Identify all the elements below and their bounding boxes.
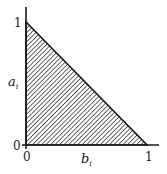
y-axis-label-main: a	[8, 74, 16, 89]
y-axis-label-subscript: i	[16, 82, 19, 91]
y-tick-label-0: 0	[13, 139, 21, 153]
y-axis-label: ai	[8, 74, 19, 91]
x-axis-label-subscript: i	[89, 159, 92, 168]
x-axis-label-main: b	[81, 151, 89, 166]
x-axis-label: bi	[81, 151, 92, 168]
y-tick-label-1: 1	[14, 16, 22, 30]
shaded-triangle-region	[26, 22, 147, 145]
x-tick-label-0: 0	[23, 150, 31, 164]
x-tick-label-1: 1	[145, 150, 153, 164]
triangle-region-diagram: 1 0 ai 0 1 bi	[0, 0, 167, 174]
